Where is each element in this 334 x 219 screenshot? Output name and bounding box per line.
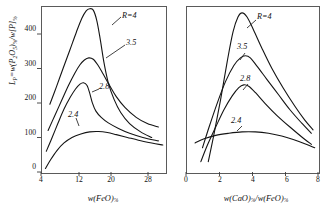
- right-curve-label-R4: R=4: [257, 12, 272, 21]
- right-x-axis-title: w(CaO)%/w(FeO)%: [196, 194, 316, 203]
- right-curve-label-3-5: 3.5: [237, 42, 247, 51]
- right-curve-label-2-8: 2.8: [240, 74, 250, 83]
- curve-R-4: [208, 13, 313, 162]
- curve-2-8: [201, 85, 312, 162]
- right-plot-canvas: [0, 0, 334, 185]
- right-x-ticks: [186, 172, 318, 176]
- left-x-axis-title: w(FeO)%: [58, 194, 148, 203]
- right-curve-group: [195, 13, 315, 162]
- curve-3-5: [203, 56, 312, 148]
- right-curve-label-2-4: 2.4: [231, 116, 241, 125]
- figure-root: LP=w(P2O5)%/w[P]% 0 100 200 300 400 4 12…: [0, 0, 334, 219]
